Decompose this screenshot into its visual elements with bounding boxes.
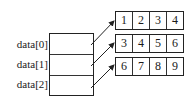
arrow-icon [91, 21, 114, 45]
pointer-arrows [0, 0, 196, 105]
arrow-icon [91, 43, 114, 66]
arrow-icon [91, 65, 114, 88]
